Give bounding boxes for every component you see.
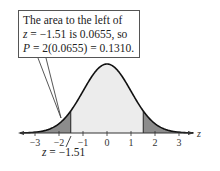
callout-line-3: P = 2(0.0655) = 0.1310. <box>23 41 139 55</box>
tick-label: −3 <box>30 137 41 148</box>
callout-pointer-left <box>38 58 61 118</box>
tick-label: 1 <box>129 137 134 148</box>
callout-pointer-right <box>46 58 61 118</box>
callout-line-2: z = −1.51 is 0.0655, so <box>23 27 139 41</box>
annotation-callout: The area to the left of z = −1.51 is 0.0… <box>18 10 140 58</box>
unshaded-area <box>21 64 194 133</box>
tick-label: 3 <box>177 137 182 148</box>
axis-arrow-left-icon <box>18 131 24 135</box>
tick-label: 0 <box>105 137 110 148</box>
callout-line-1: The area to the left of <box>23 13 139 27</box>
axis-arrow-right-icon <box>188 131 194 135</box>
critical-value-label: z = −1.51 <box>42 146 85 158</box>
tick-label: 2 <box>153 137 158 148</box>
x-axis-label: z <box>197 128 201 139</box>
